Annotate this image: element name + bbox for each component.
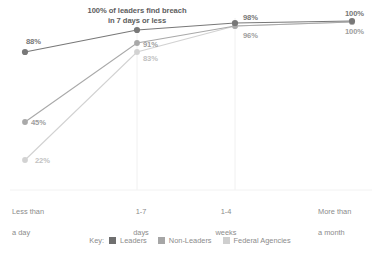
- datapoint-non-leaders-less-than-a-day: [22, 119, 28, 125]
- series-line-non-leaders: [25, 22, 352, 122]
- datalabel-non-leaders-more-than-a-month: 100%: [345, 27, 364, 36]
- datalabel-non-leaders-less-than-a-day: 45%: [31, 118, 46, 127]
- legend-label-federal-agencies: Federal Agencies: [234, 236, 291, 245]
- datapoint-non-leaders-1-7-days: [134, 40, 140, 46]
- datalabel-non-leaders-1-7-days: 91%: [143, 40, 158, 49]
- legend-swatch-leaders-icon: [109, 237, 116, 244]
- datalabel-federal-agencies-1-7-days: 83%: [143, 54, 158, 63]
- datapoint-leaders-less-than-a-day: [22, 49, 28, 55]
- datalabel-federal-agencies-less-than-a-day: 22%: [35, 156, 50, 165]
- datalabel-leaders-1-4-weeks: 98%: [243, 13, 258, 22]
- legend-item-federal-agencies[interactable]: Federal Agencies: [223, 236, 291, 245]
- x-axis-label-more-than-a-month-line1: More than: [318, 207, 374, 218]
- legend-swatch-federal-agencies-icon: [223, 237, 230, 244]
- datapoint-leaders-1-7-days: [134, 27, 140, 33]
- chart-container: 100% of leaders find breach in 7 days or…: [0, 0, 380, 259]
- datapoint-leaders-more-than-a-month: [349, 18, 355, 24]
- chart-title: 100% of leaders find breach in 7 days or…: [62, 6, 212, 26]
- x-axis-label-less-than-a-day-line1: Less than: [12, 207, 44, 218]
- legend-label-non-leaders: Non-Leaders: [169, 236, 212, 245]
- datapoint-federal-agencies-1-7-days: [134, 49, 140, 55]
- legend-item-non-leaders[interactable]: Non-Leaders: [158, 236, 212, 245]
- datalabel-non-leaders-1-4-weeks: 96%: [243, 31, 258, 40]
- chart-title-line-2: in 7 days or less: [62, 16, 212, 26]
- x-axis-label-1-7-days-line1: 1-7: [118, 207, 164, 218]
- legend-item-leaders[interactable]: Leaders: [109, 236, 147, 245]
- legend-label-leaders: Leaders: [120, 236, 147, 245]
- datalabel-leaders-less-than-a-day: 88%: [26, 37, 41, 46]
- datapoint-leaders-1-4-weeks: [232, 20, 238, 26]
- datalabel-leaders-more-than-a-month: 100%: [345, 9, 364, 18]
- x-axis-labels: Less than a day 1-7 days 1-4 weeks More …: [0, 196, 380, 226]
- legend-key-prefix: Key:: [89, 236, 104, 245]
- chart-legend: Key: Leaders Non-Leaders Federal Agencie…: [0, 236, 380, 245]
- datapoint-federal-agencies-less-than-a-day: [22, 157, 28, 163]
- legend-swatch-non-leaders-icon: [158, 237, 165, 244]
- chart-title-line-1: 100% of leaders find breach: [62, 6, 212, 16]
- x-axis-label-1-4-weeks-line1: 1-4: [203, 207, 249, 218]
